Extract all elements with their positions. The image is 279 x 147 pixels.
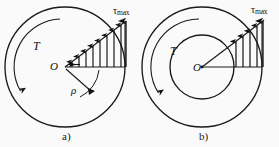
panel-b-center-dot bbox=[201, 66, 204, 69]
panel-a-solid-shaft bbox=[5, 7, 126, 127]
panel-a-rho-arrowhead bbox=[88, 88, 95, 95]
panel-a-rho-label: ρ bbox=[71, 85, 76, 96]
panel-a-caption: a) bbox=[62, 130, 71, 142]
panel-b-tau-max-label: τmax bbox=[251, 5, 267, 16]
panel-a-stress-arrows bbox=[72, 25, 121, 67]
figure-container: T O ρ τmax T O τmax a) b) bbox=[0, 0, 279, 147]
panel-b-stress-arrows bbox=[236, 26, 257, 68]
panel-b-center-label: O bbox=[193, 62, 201, 73]
panel-b-torque-label: T bbox=[170, 45, 177, 57]
panel-b-tau-subscript: max bbox=[255, 7, 267, 16]
panel-b-caption: b) bbox=[199, 130, 208, 142]
panel-a-tau-subscript: max bbox=[117, 8, 129, 17]
panel-a-torque-arc bbox=[14, 19, 60, 91]
panel-b-hollow-shaft bbox=[142, 7, 264, 127]
panel-a-stress-envelope bbox=[65, 21, 126, 67]
panel-a-center-label: O bbox=[50, 61, 58, 72]
panel-a-torque-label: T bbox=[33, 40, 40, 52]
panel-a-tau-max-label: τmax bbox=[113, 6, 129, 17]
torsion-diagram-svg bbox=[0, 0, 279, 147]
